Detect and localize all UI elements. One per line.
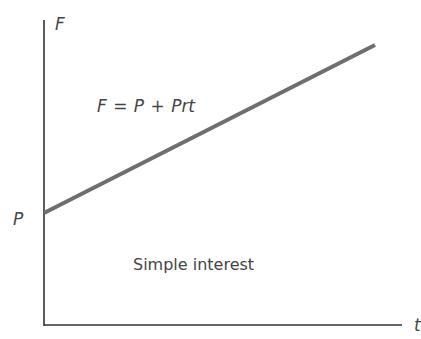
y-axis-label: F <box>55 16 65 33</box>
equation-label: F = P + Prt <box>97 98 195 115</box>
simple-interest-line <box>44 45 375 213</box>
chart-canvas <box>0 0 421 339</box>
intercept-label: P <box>13 211 23 228</box>
x-axis-label: t <box>414 317 421 334</box>
annotation-label: Simple interest <box>133 257 254 273</box>
